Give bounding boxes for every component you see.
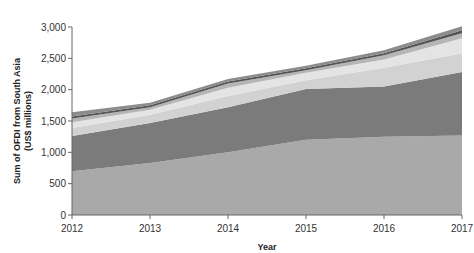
y-tick-label: 2,000	[41, 84, 66, 95]
x-tick-label: 2012	[61, 223, 84, 234]
y-ticks: 05001,0001,5002,0002,5003,000	[41, 22, 72, 221]
x-tick-label: 2014	[217, 223, 240, 234]
stacked-area-chart: 05001,0001,5002,0002,5003,000 2012201320…	[0, 0, 474, 253]
y-tick-label: 500	[49, 178, 66, 189]
x-axis-title: Year	[257, 242, 277, 252]
y-tick-label: 3,000	[41, 22, 66, 33]
y-tick-label: 0	[60, 210, 66, 221]
y-axis-title: Sum of OFDI from South Asia	[12, 57, 22, 184]
x-tick-label: 2016	[373, 223, 396, 234]
x-tick-label: 2015	[295, 223, 318, 234]
y-tick-label: 2,500	[41, 53, 66, 64]
x-tick-label: 2017	[451, 223, 474, 234]
y-tick-label: 1,000	[41, 147, 66, 158]
y-tick-label: 1,500	[41, 116, 66, 127]
y-axis-title-units: (US$ millions)	[23, 91, 33, 151]
x-ticks: 201220132014201520162017	[61, 215, 474, 234]
area-layers	[72, 26, 462, 215]
x-tick-label: 2013	[139, 223, 162, 234]
